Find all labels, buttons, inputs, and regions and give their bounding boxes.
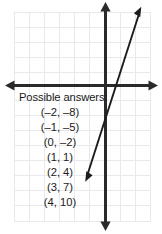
y-axis-arrow-down-icon — [100, 222, 110, 232]
figure-canvas: Possible answers: (–2, –8) (–1, –5) (0, … — [0, 0, 162, 234]
x-axis-arrow-left-icon — [5, 80, 15, 90]
x-axis-arrow-right-icon — [149, 80, 159, 90]
line-segment — [88, 16, 139, 174]
plotted-line-series — [85, 7, 141, 182]
coordinate-plane-graphic — [0, 0, 162, 234]
y-axis-arrow-up-icon — [100, 2, 110, 12]
